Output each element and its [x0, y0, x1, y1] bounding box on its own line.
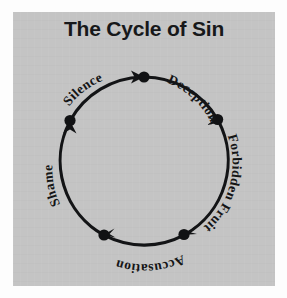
node-lower-left[interactable]: [98, 229, 109, 240]
stage-label-forbidden-fruit: Forbidden Fruit: [201, 132, 245, 236]
arc-accusation: [106, 235, 184, 245]
stage-label-accusation-text: Accusation: [113, 252, 187, 276]
stage-label-accusation: Accusation: [113, 252, 187, 276]
node-upper-left[interactable]: [64, 115, 75, 126]
stage-label-deception: Deception: [166, 72, 222, 125]
stage-label-deception-text: Deception: [166, 72, 222, 125]
node-top[interactable]: [138, 71, 149, 82]
diagram-page: The Cycle of Sin: [0, 0, 287, 298]
node-lower-right[interactable]: [178, 229, 189, 240]
cycle-diagram: Deception Forbidden Fruit Accusation Sha…: [13, 12, 275, 286]
arc-shame: [60, 122, 104, 235]
stage-label-forbidden-fruit-text: Forbidden Fruit: [201, 132, 245, 236]
